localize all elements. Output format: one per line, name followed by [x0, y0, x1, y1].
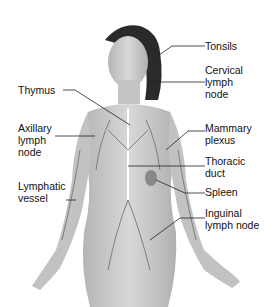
spleen [145, 170, 157, 186]
label-thoracic-duct: Thoracic duct [205, 155, 245, 179]
label-axillary-lymph-node: Axillary lymph node [18, 122, 52, 158]
torso [83, 104, 176, 307]
label-tonsils: Tonsils [205, 40, 237, 52]
label-cervical-lymph-node: Cervical lymph node [205, 64, 243, 100]
label-thymus: Thymus [18, 84, 55, 96]
label-inguinal-lymph-node: Inguinal lymph node [205, 207, 259, 231]
label-lymphatic-vessel: Lymphatic vessel [18, 180, 65, 204]
label-spleen: Spleen [205, 186, 238, 198]
label-mammary-plexus: Mammary plexus [205, 122, 252, 146]
